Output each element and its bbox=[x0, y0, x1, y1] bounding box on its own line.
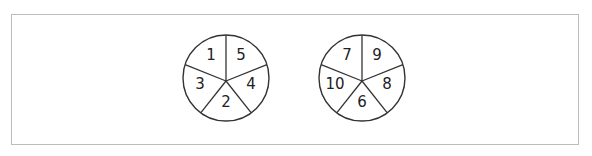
section-label: 2 bbox=[221, 93, 231, 111]
section-label: 7 bbox=[342, 46, 352, 64]
section-label: 3 bbox=[195, 75, 205, 93]
spinner-a: 15423 bbox=[183, 35, 269, 121]
section-label: 8 bbox=[382, 75, 392, 93]
section-label: 5 bbox=[236, 46, 246, 64]
section-label: 4 bbox=[246, 75, 256, 93]
section-label: 6 bbox=[357, 93, 367, 111]
spinner-b: 798610 bbox=[319, 35, 405, 121]
section-label: 9 bbox=[372, 46, 382, 64]
section-label: 1 bbox=[206, 46, 216, 64]
spinners-diagram: 15423 798610 bbox=[0, 0, 592, 156]
section-label: 10 bbox=[325, 75, 344, 93]
